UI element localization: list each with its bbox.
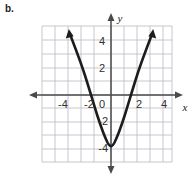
x-axis-label: x [182, 101, 188, 113]
x-tick-label: -2 [84, 98, 94, 110]
figure-container: b. [0, 0, 196, 178]
x-tick-label: -4 [58, 98, 68, 110]
origin-label: 0 [99, 98, 105, 110]
x-tick-label: 4 [161, 98, 167, 110]
y-tick-label: 2 [99, 62, 105, 74]
y-axis-label: y [117, 12, 123, 24]
y-tick-label: -2 [98, 115, 108, 127]
y-tick-label: -4 [98, 142, 108, 154]
y-axis-arrow-bottom [108, 166, 115, 174]
x-tick-label: 2 [136, 98, 142, 110]
coordinate-graph: -4 -2 2 4 4 2 -2 -4 0 x y [0, 0, 196, 178]
x-axis-arrow-right [175, 92, 183, 99]
x-axis-arrow-left [29, 92, 37, 99]
y-axis-arrow-top [108, 13, 115, 21]
y-tick-label: 4 [99, 35, 105, 47]
